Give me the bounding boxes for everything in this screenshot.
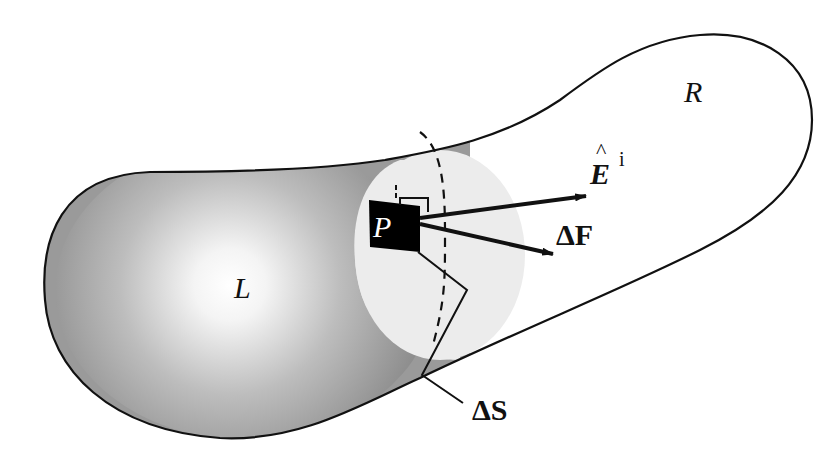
superscript-i: i [619,148,625,170]
hat-accent: ^ [596,138,607,163]
surface-element-label: ΔS [472,393,508,426]
force-label: ΔF [556,218,593,251]
diagram-canvas: L R P E ^ i ΔF ΔS [0,0,817,465]
point-label: P [372,210,391,243]
left-region-label: L [233,271,251,304]
left-region-shading [0,0,525,465]
right-region-label: R [683,75,702,108]
